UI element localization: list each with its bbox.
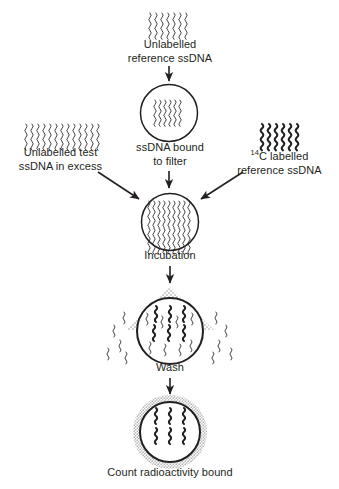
- caption-c14-line2: reference ssDNA: [237, 164, 322, 176]
- caption-ssdna-bound-to-filter: ssDNA bound to filter: [110, 141, 230, 168]
- filter-circle-incubation: [142, 194, 199, 255]
- caption-count-radioactivity: Count radioactivity bound: [74, 466, 266, 480]
- filter-circle-wash: [137, 298, 203, 364]
- strand-group-unlabelled-reference: [149, 13, 187, 39]
- filter-circle-bound: [141, 85, 198, 142]
- superscript-14: 14: [251, 148, 259, 157]
- caption-c14-labelled-reference: 14C labelledreference ssDNA: [221, 146, 338, 177]
- caption-incubation: Incubation: [125, 249, 215, 263]
- caption-c14-line1: C labelled: [259, 150, 308, 162]
- caption-unlabelled-reference: Unlabelled reference ssDNA: [104, 38, 236, 65]
- strand-group-incubation-row1: [148, 201, 190, 227]
- caption-unlabelled-test-excess: Unlabelled test ssDNA in excess: [2, 146, 119, 173]
- caption-wash: Wash: [132, 361, 208, 375]
- assay-flow-diagram: [0, 0, 339, 489]
- arrow-left-to-incubation: [98, 172, 139, 199]
- strand-group-bound: [154, 100, 181, 126]
- filter-circle-count: [133, 395, 207, 469]
